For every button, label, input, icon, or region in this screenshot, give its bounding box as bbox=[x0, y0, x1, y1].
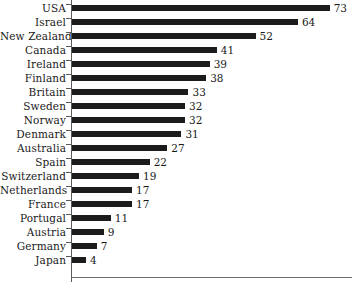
category-label: Netherlands bbox=[0, 183, 66, 197]
bar-row: Portugal11 bbox=[0, 211, 354, 225]
bar-value-label: 11 bbox=[115, 211, 128, 225]
bar-value-label: 39 bbox=[214, 57, 227, 71]
bar bbox=[72, 75, 206, 81]
bar-row: Australia27 bbox=[0, 141, 354, 155]
bar-value-label: 4 bbox=[90, 253, 97, 267]
category-label: Portugal bbox=[0, 211, 66, 225]
category-label: USA bbox=[0, 1, 66, 15]
bar bbox=[72, 19, 298, 25]
bar-value-label: 19 bbox=[143, 169, 156, 183]
bar-value-label: 32 bbox=[189, 113, 202, 127]
bar-row: Finland38 bbox=[0, 71, 354, 85]
bar-row: Netherlands17 bbox=[0, 183, 354, 197]
x-axis-line bbox=[71, 277, 352, 278]
bar bbox=[72, 103, 185, 109]
bar-row: Britain33 bbox=[0, 85, 354, 99]
category-label: Spain bbox=[0, 155, 66, 169]
bar-chart: USA73Israel64New Zealand52Canada41Irelan… bbox=[0, 0, 354, 284]
bar-value-label: 17 bbox=[136, 197, 149, 211]
bar-row: Sweden32 bbox=[0, 99, 354, 113]
category-label: Germany bbox=[0, 239, 66, 253]
category-label: France bbox=[0, 197, 66, 211]
bar-row: Japan4 bbox=[0, 253, 354, 267]
category-label: Denmark bbox=[0, 127, 66, 141]
bar bbox=[72, 131, 181, 137]
category-label: Austria bbox=[0, 225, 66, 239]
bar bbox=[72, 33, 256, 39]
bar-value-label: 73 bbox=[334, 1, 347, 15]
bar-row: Austria9 bbox=[0, 225, 354, 239]
category-label: Britain bbox=[0, 85, 66, 99]
bar-row: Spain22 bbox=[0, 155, 354, 169]
bar-row: Canada41 bbox=[0, 43, 354, 57]
bar-value-label: 41 bbox=[221, 43, 234, 57]
bar-value-label: 38 bbox=[210, 71, 223, 85]
category-label: Switzerland bbox=[0, 169, 66, 183]
bar-value-label: 7 bbox=[101, 239, 108, 253]
chart-plot-area: USA73Israel64New Zealand52Canada41Irelan… bbox=[0, 0, 354, 277]
bar bbox=[72, 145, 167, 151]
bar bbox=[72, 159, 150, 165]
bar-value-label: 52 bbox=[260, 29, 273, 43]
bar-value-label: 22 bbox=[154, 155, 167, 169]
bar bbox=[72, 89, 188, 95]
bar-row: New Zealand52 bbox=[0, 29, 354, 43]
bar bbox=[72, 201, 132, 207]
category-label: Japan bbox=[0, 253, 66, 267]
bar-value-label: 17 bbox=[136, 183, 149, 197]
category-label: Finland bbox=[0, 71, 66, 85]
category-label: Ireland bbox=[0, 57, 66, 71]
bar bbox=[72, 61, 210, 67]
y-axis-line bbox=[71, 0, 72, 282]
category-label: Sweden bbox=[0, 99, 66, 113]
bar-value-label: 27 bbox=[171, 141, 184, 155]
bar-row: USA73 bbox=[0, 1, 354, 15]
bar bbox=[72, 257, 86, 263]
bar-row: Germany7 bbox=[0, 239, 354, 253]
bar bbox=[72, 243, 97, 249]
bar-row: France17 bbox=[0, 197, 354, 211]
bar bbox=[72, 5, 330, 11]
bar-row: Switzerland19 bbox=[0, 169, 354, 183]
bar-value-label: 32 bbox=[189, 99, 202, 113]
bar-row: Ireland39 bbox=[0, 57, 354, 71]
category-label: Israel bbox=[0, 15, 66, 29]
category-label: Norway bbox=[0, 113, 66, 127]
bar-row: Norway32 bbox=[0, 113, 354, 127]
category-label: New Zealand bbox=[0, 29, 66, 43]
bar bbox=[72, 187, 132, 193]
bar-value-label: 31 bbox=[185, 127, 198, 141]
bar-value-label: 64 bbox=[302, 15, 315, 29]
bar bbox=[72, 173, 139, 179]
category-label: Canada bbox=[0, 43, 66, 57]
bar bbox=[72, 215, 111, 221]
bar-value-label: 9 bbox=[108, 225, 115, 239]
bar bbox=[72, 229, 104, 235]
category-label: Australia bbox=[0, 141, 66, 155]
bar-value-label: 33 bbox=[192, 85, 205, 99]
bar-row: Denmark31 bbox=[0, 127, 354, 141]
bar bbox=[72, 117, 185, 123]
bar bbox=[72, 47, 217, 53]
bar-row: Israel64 bbox=[0, 15, 354, 29]
